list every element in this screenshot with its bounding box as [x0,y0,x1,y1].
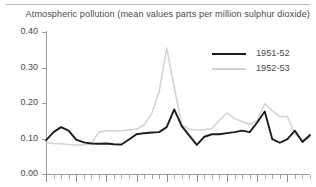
chart-plot-area [0,0,316,187]
chart-page: Atmospheric pollution (mean values parts… [0,0,316,187]
series-line-1951-52 [46,109,310,145]
